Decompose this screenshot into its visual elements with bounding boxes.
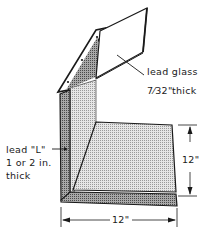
lead-glass-label: lead glass [147, 66, 198, 78]
diagram-canvas [0, 0, 205, 235]
lead-l-horizontal [61, 192, 177, 206]
height-dimension-label: 12" [182, 154, 199, 166]
lead-l-thick-word: thick [6, 170, 31, 182]
lead-l-label: lead "L" [6, 144, 46, 156]
lead-l-vertical [60, 90, 70, 200]
lead-glass-plate [96, 8, 147, 79]
width-dimension-label: 12" [112, 214, 129, 226]
lead-glass-thickness-word: thick [172, 85, 197, 97]
lead-glass-thickness-fraction: 7⁄32" [147, 85, 173, 97]
lead-l-thickness: 1 or 2 in. [6, 157, 52, 169]
